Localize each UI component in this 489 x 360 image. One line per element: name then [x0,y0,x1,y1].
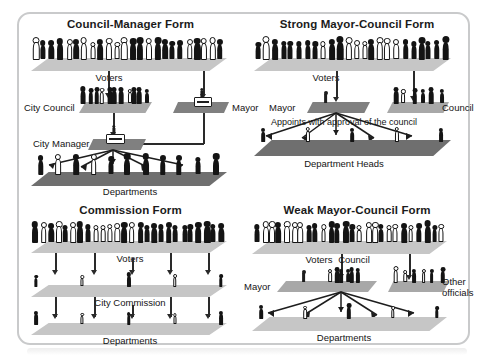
person-figure [195,157,201,175]
person-figure [187,224,193,242]
quadrant-council-manager: Council-Manager Form Voters City Council… [17,12,244,192]
person-figure [79,313,85,325]
platform-department-heads [254,140,451,156]
person-figure [394,127,400,142]
panel-drop-shadow [27,348,467,355]
person-figure [144,225,150,243]
person-figure [138,222,144,243]
person-figure [260,128,266,141]
crowd-city-commission [33,272,225,287]
crowd-departments-com [33,310,225,325]
label-voters-com: Voters [117,253,144,264]
crowd-voters-com [33,220,225,243]
person-figure [172,274,178,287]
person-figure [107,224,113,243]
person-figure [41,222,47,242]
person-figure [121,222,127,243]
person-figure [438,128,444,142]
person-figure [79,275,85,286]
person-figure [55,154,61,175]
person-figure [218,311,224,325]
person-figure [38,155,44,175]
person-figure [126,312,132,325]
crowd-departments-cm [37,153,219,175]
person-figure [91,154,97,175]
person-figure [160,155,166,175]
person-figure [93,225,99,242]
person-figure [172,225,178,242]
person-figure [77,221,83,243]
person-figure [100,225,106,242]
person-figure [176,155,182,175]
person-figure [434,306,440,318]
person-figure [129,222,135,243]
person-figure [73,154,79,174]
crowd-departments-wm [258,303,441,319]
title-commission: Commission Form [17,204,244,216]
person-figure [349,128,355,141]
person-figure [218,223,224,242]
person-figure [172,313,178,324]
label-department-heads: Department Heads [304,158,384,169]
person-figure [126,272,132,287]
quadrant-commission: Commission Form Voters City Commission D… [17,192,244,345]
label-departments-wm: Departments [317,332,371,343]
crowd-department-heads [260,126,445,142]
person-figure [158,224,164,242]
person-figure [166,222,172,242]
person-figure [210,224,216,243]
person-figure [305,127,311,142]
person-figure [48,223,54,243]
person-figure [258,305,264,318]
person-figure [143,153,149,175]
person-figure [33,275,39,287]
platform-departments-wm [252,317,447,331]
person-figure [302,306,308,319]
person-figure [124,153,130,175]
person-figure [390,306,396,319]
person-figure [151,223,157,243]
quadrant-strong-mayor-council: Strong Mayor-Council Form Voters Mayor C… [244,12,470,192]
quadrant-weak-mayor-council: Weak Mayor-Council Form Voters Council M… [244,192,470,345]
person-figure [114,223,120,242]
person-figure [218,274,224,286]
person-figure [85,224,91,242]
label-city-commission: City Commission [94,297,165,308]
person-figure [346,303,352,319]
person-figure [62,225,68,242]
person-figure [195,222,201,243]
person-figure [32,221,38,243]
diagram-canvas: Council-Manager Form Voters City Council… [0,0,489,360]
label-departments-com: Departments [103,335,157,346]
person-figure [33,311,39,325]
person-figure [108,156,114,174]
person-figure [213,153,219,175]
